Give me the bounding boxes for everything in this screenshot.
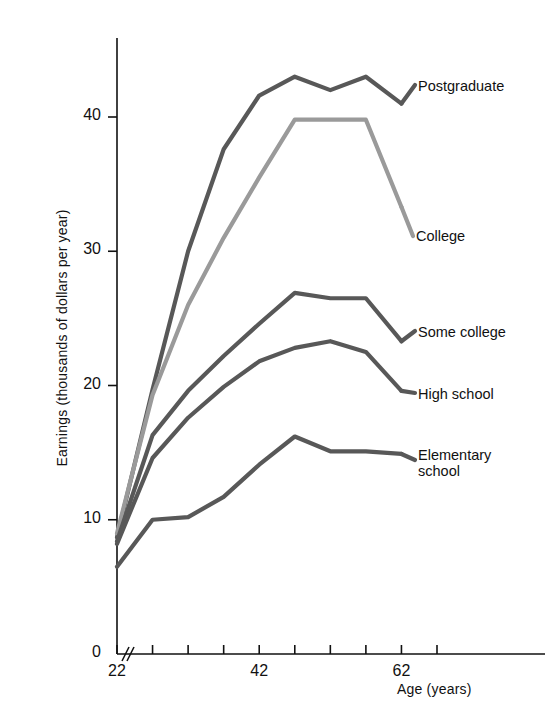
y-tick-label: 30: [55, 240, 101, 258]
leader-line-elementary-school: [401, 454, 415, 460]
x-tick-label: 42: [229, 662, 289, 680]
x-tick-label: 22: [87, 662, 147, 680]
series-label-postgraduate: Postgraduate: [418, 78, 504, 94]
label-leader-lines: [401, 85, 415, 460]
series-line-elementary-school: [117, 437, 401, 567]
series-label-elementary-school: Elementary school: [418, 447, 491, 479]
series-label-college: College: [416, 228, 465, 244]
leader-line-college: [401, 207, 413, 236]
y-tick-label: 10: [55, 509, 101, 527]
y-tick-label: 40: [55, 106, 101, 124]
axes: [117, 38, 545, 654]
series-label-high-school: High school: [418, 386, 494, 402]
data-series-lines: [117, 77, 401, 567]
y-tick-label: 0: [55, 643, 101, 661]
series-line-postgraduate: [117, 77, 401, 537]
y-tick-label: 20: [55, 375, 101, 393]
leader-line-high-school: [401, 391, 415, 393]
leader-line-some-college: [401, 331, 415, 341]
series-label-elementary-line1: Elementary: [418, 447, 491, 463]
series-label-some-college: Some college: [418, 324, 506, 340]
earnings-by-education-chart: Earnings (thousands of dollars per year)…: [0, 0, 551, 712]
series-label-elementary-line2: school: [418, 463, 460, 479]
leader-line-postgraduate: [401, 85, 415, 104]
series-line-some-college: [117, 293, 401, 541]
x-tick-label: 62: [371, 662, 431, 680]
